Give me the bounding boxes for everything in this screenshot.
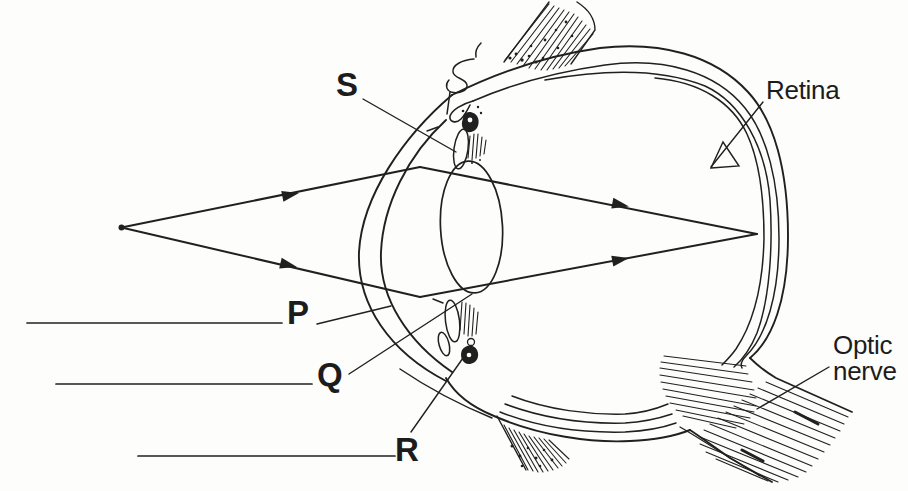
ray-arrowhead — [611, 253, 630, 267]
light-rays — [119, 167, 758, 297]
ciliary-body-lower — [460, 302, 478, 364]
ciliary-body-upper — [462, 110, 486, 164]
retina-pointer-triangle — [711, 142, 739, 168]
inferior-muscle — [497, 416, 569, 472]
ray-lower-incident — [122, 228, 421, 298]
eye-diagram-art — [0, 0, 908, 491]
ray-upper-refracted — [420, 167, 757, 234]
eye-anatomy-worksheet: S P Q R Retina Optic nerve — [0, 0, 908, 491]
ray-arrowhead — [281, 188, 300, 202]
label-retina: Retina — [766, 77, 839, 103]
leader-s — [363, 99, 456, 152]
leader-r — [411, 358, 463, 432]
label-p: P — [287, 294, 309, 332]
leader-p — [317, 306, 391, 324]
ray-lower-refracted — [420, 234, 757, 297]
label-q: Q — [317, 356, 342, 394]
label-optic-line2: nerve — [833, 356, 897, 386]
lens — [437, 159, 506, 294]
ray-upper-incident — [122, 167, 421, 228]
ray-arrowhead — [611, 198, 630, 212]
superior-muscle — [504, 2, 595, 70]
optic-nerve-bundle — [660, 356, 852, 482]
iris-lower — [436, 299, 462, 357]
label-s: S — [336, 66, 358, 104]
leader-q — [349, 294, 472, 374]
retina-choroid-layers — [473, 63, 779, 432]
label-r: R — [395, 431, 419, 469]
eyeball-outline — [400, 46, 788, 441]
ray-arrowhead — [279, 258, 298, 273]
eyelid-squiggle — [447, 43, 481, 114]
label-optic-nerve: Optic nerve — [833, 332, 897, 384]
